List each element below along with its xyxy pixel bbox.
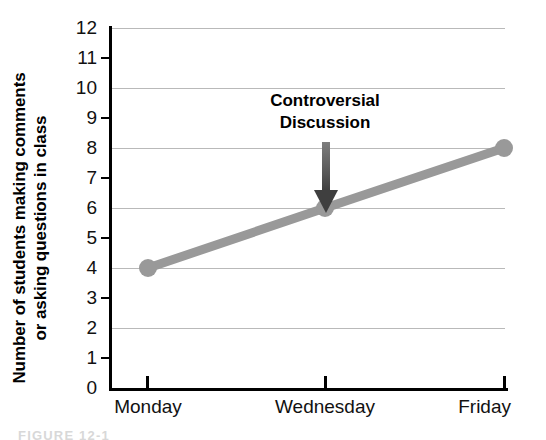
y-tick-3: [101, 297, 112, 299]
y-tick-11: [101, 57, 112, 59]
y-axis-label-line-1: Number of students making comments: [9, 72, 30, 383]
x-tick-label-wednesday: Wednesday: [275, 396, 375, 418]
y-axis-label-line-2: or asking questions in class: [30, 116, 51, 341]
figure-caption: FIGURE 12-1: [18, 428, 110, 440]
y-tick-label-11: 11: [67, 47, 97, 69]
data-series: [112, 28, 505, 388]
y-tick-5: [101, 237, 112, 239]
y-tick-label-1: 1: [67, 347, 97, 369]
y-tick-1: [101, 357, 112, 359]
x-axis-spine: [109, 388, 508, 391]
down-arrow-icon: [313, 142, 339, 214]
y-axis-label: Number of students making comments or as…: [0, 28, 60, 428]
y-tick-label-10: 10: [67, 77, 97, 99]
y-tick-label-5: 5: [67, 227, 97, 249]
x-tick-label-monday: Monday: [114, 396, 182, 418]
y-tick-label-7: 7: [67, 167, 97, 189]
plot-area: 0123456789101112 MondayWednesdayFriday: [112, 28, 505, 388]
y-tick-7: [101, 177, 112, 179]
y-tick-label-9: 9: [67, 107, 97, 129]
y-tick-label-6: 6: [67, 197, 97, 219]
y-tick-label-0: 0: [67, 377, 97, 399]
x-tick-label-friday: Friday: [458, 396, 511, 418]
y-tick-label-2: 2: [67, 317, 97, 339]
y-tick-label-12: 12: [67, 17, 97, 39]
figure-root: Number of students making comments or as…: [0, 0, 546, 440]
y-tick-9: [101, 117, 112, 119]
y-tick-label-8: 8: [67, 137, 97, 159]
y-tick-label-4: 4: [67, 257, 97, 279]
y-tick-label-3: 3: [67, 287, 97, 309]
data-point-friday: [495, 139, 513, 157]
data-point-monday: [139, 259, 157, 277]
